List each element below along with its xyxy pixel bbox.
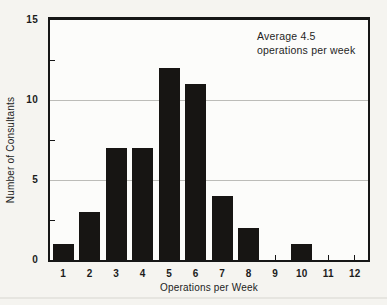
x-tick-label-9: 9 [272, 268, 278, 279]
x-tick-label-1: 1 [60, 268, 66, 279]
y-tick-label-15: 15 [26, 14, 38, 25]
x-tick-9 [275, 255, 276, 260]
x-axis-tick-labels: 123456789101112 [50, 268, 368, 282]
x-tick-12 [354, 255, 355, 260]
gridline-y-5 [50, 180, 368, 181]
x-tick-label-5: 5 [166, 268, 172, 279]
bar-2 [79, 212, 100, 260]
x-tick-label-3: 3 [113, 268, 119, 279]
y-minor-tick-7.5 [50, 140, 55, 141]
gridline-y-10 [50, 100, 368, 101]
bar-10 [291, 244, 312, 260]
bar-6 [185, 84, 206, 260]
x-tick-label-7: 7 [219, 268, 225, 279]
x-tick-label-12: 12 [349, 268, 361, 279]
bar-8 [238, 228, 259, 260]
y-tick-label-5: 5 [32, 174, 38, 185]
bar-5 [159, 68, 180, 260]
x-tick-11 [328, 255, 329, 260]
y-axis-tick-labels: 051015 [0, 20, 44, 260]
y-tick-label-0: 0 [32, 254, 38, 265]
bar-1 [53, 244, 74, 260]
y-minor-tick-12.5 [50, 60, 55, 61]
bar-3 [106, 148, 127, 260]
x-tick-label-11: 11 [323, 268, 334, 279]
scan-artifact-streak [0, 297, 387, 299]
annotation-line-1: Average 4.5 [257, 29, 355, 43]
x-tick-label-10: 10 [296, 268, 308, 279]
y-minor-tick-2.5 [50, 220, 55, 221]
annotation-line-2: operations per week [257, 43, 355, 57]
x-tick-label-8: 8 [246, 268, 252, 279]
bar-4 [132, 148, 153, 260]
histogram-figure: Number of Consultants 051015 Average 4.5… [0, 0, 387, 305]
bar-7 [212, 196, 233, 260]
x-axis-title: Operations per Week [48, 282, 370, 293]
x-tick-label-4: 4 [140, 268, 146, 279]
x-tick-label-6: 6 [193, 268, 199, 279]
average-annotation: Average 4.5 operations per week [257, 29, 355, 57]
y-tick-label-10: 10 [26, 94, 38, 105]
x-tick-label-2: 2 [87, 268, 93, 279]
